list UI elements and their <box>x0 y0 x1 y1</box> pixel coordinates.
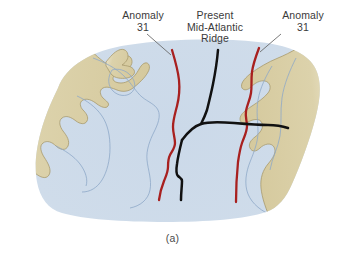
figure-panel-a: Anomaly 31 Present Mid-Atlantic Ridge An… <box>0 0 345 270</box>
label-anomaly-east-line2: 31 <box>272 22 334 34</box>
panel-caption: (a) <box>0 232 345 244</box>
label-anomaly-west-line1: Anomaly <box>122 9 164 21</box>
label-ridge-line3: Ridge <box>176 33 254 45</box>
label-anomaly-east-line1: Anomaly <box>282 9 324 21</box>
label-present-mid-atlantic-ridge: Present Mid-Atlantic Ridge <box>176 10 254 45</box>
label-ridge-line1: Present <box>197 9 234 21</box>
map-body <box>0 0 345 270</box>
atlantic-map-graphic <box>0 0 345 270</box>
label-anomaly-31-west: Anomaly 31 <box>112 10 174 33</box>
label-anomaly-west-line2: 31 <box>112 22 174 34</box>
label-anomaly-31-east: Anomaly 31 <box>272 10 334 33</box>
